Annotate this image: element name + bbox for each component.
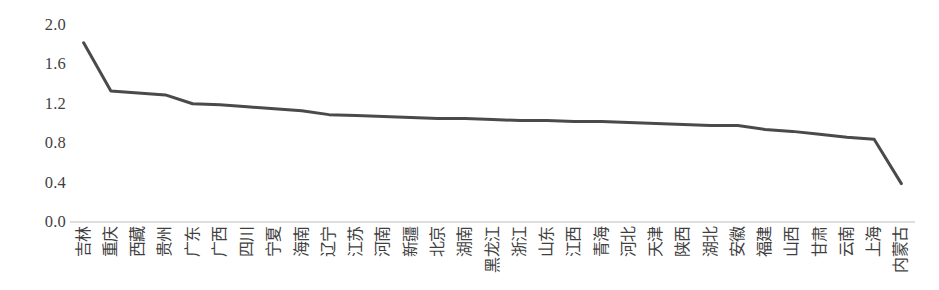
- x-tick-label: 北京: [427, 226, 449, 290]
- x-tick-label: 宁夏: [263, 226, 285, 290]
- x-tick-label: 辽宁: [318, 226, 340, 290]
- x-tick-label: 安徽: [727, 226, 749, 290]
- y-tick-label: 0.4: [6, 174, 66, 191]
- x-tick-label: 江苏: [345, 226, 367, 290]
- y-tick-label: 0.8: [6, 135, 66, 152]
- x-tick-label: 云南: [836, 226, 858, 290]
- x-tick-label: 湖北: [700, 226, 722, 290]
- x-tick-label: 贵州: [154, 226, 176, 290]
- x-tick-label: 内蒙古: [890, 226, 912, 290]
- x-tick-label: 重庆: [100, 226, 122, 290]
- x-tick-label: 浙江: [509, 226, 531, 290]
- x-tick-label: 河北: [618, 226, 640, 290]
- x-tick-label: 四川: [236, 226, 258, 290]
- y-tick-label: 1.2: [6, 96, 66, 113]
- x-tick-label: 广东: [182, 226, 204, 290]
- x-tick-label: 西藏: [127, 226, 149, 290]
- x-tick-label: 吉林: [73, 226, 95, 290]
- x-tick-label: 天津: [645, 226, 667, 290]
- x-tick-label: 山西: [781, 226, 803, 290]
- x-tick-label: 海南: [291, 226, 313, 290]
- y-axis: 0.00.40.81.21.62.0: [0, 0, 66, 290]
- y-tick-label: 0.0: [6, 214, 66, 231]
- plot-svg: [70, 0, 915, 230]
- y-tick-label: 2.0: [6, 17, 66, 34]
- line-chart: 0.00.40.81.21.62.0 吉林重庆西藏贵州广东广西四川宁夏海南辽宁江…: [0, 0, 939, 290]
- x-tick-label: 江西: [563, 226, 585, 290]
- x-tick-label: 陕西: [672, 226, 694, 290]
- x-tick-label: 上海: [863, 226, 885, 290]
- x-tick-label: 甘肃: [809, 226, 831, 290]
- x-tick-label: 山东: [536, 226, 558, 290]
- x-axis: 吉林重庆西藏贵州广东广西四川宁夏海南辽宁江苏河南新疆北京湖南黑龙江浙江山东江西青…: [70, 226, 915, 290]
- x-tick-label: 福建: [754, 226, 776, 290]
- x-tick-label: 河南: [372, 226, 394, 290]
- y-tick-label: 1.6: [6, 56, 66, 73]
- x-tick-label: 广西: [209, 226, 231, 290]
- x-tick-label: 青海: [591, 226, 613, 290]
- x-tick-label: 湖南: [454, 226, 476, 290]
- x-tick-label: 黑龙江: [482, 226, 504, 290]
- x-tick-label: 新疆: [400, 226, 422, 290]
- plot-area: [70, 0, 915, 230]
- data-series-line: [84, 43, 902, 184]
